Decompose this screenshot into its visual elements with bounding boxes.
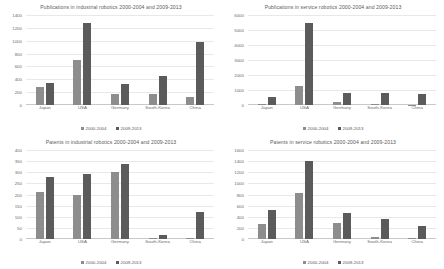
bar bbox=[111, 172, 119, 239]
y-axis-tick-label: 0 bbox=[20, 103, 22, 108]
y-axis-tick-label: 5000 bbox=[234, 28, 244, 33]
legend-item[interactable]: 2009-2013 bbox=[338, 260, 364, 265]
legend-item[interactable]: 2009-2013 bbox=[338, 126, 364, 131]
bar bbox=[295, 86, 303, 106]
bar bbox=[36, 192, 44, 239]
bar bbox=[149, 94, 157, 105]
y-axis-tick-label: 600 bbox=[237, 203, 244, 208]
legend-swatch-icon bbox=[303, 261, 307, 265]
legend-item[interactable]: 2000-2004 bbox=[81, 126, 107, 131]
chart-legend: 2000-20042009-2013 bbox=[0, 260, 222, 265]
bar-group bbox=[398, 15, 436, 105]
chart-grid: Publications in industrial robotics 2000… bbox=[0, 0, 444, 269]
legend-swatch-icon bbox=[338, 261, 342, 265]
bar-group bbox=[139, 150, 177, 239]
y-axis-tick-label: 4000 bbox=[234, 43, 244, 48]
chart-panel-publications-industrial: Publications in industrial robotics 2000… bbox=[0, 0, 222, 135]
bar bbox=[121, 164, 129, 239]
y-axis-tick-label: 0 bbox=[242, 103, 244, 108]
bar-group bbox=[176, 15, 214, 105]
plot-area: 050100150200250300350400 bbox=[26, 150, 214, 239]
x-axis-tick-label: China bbox=[176, 239, 214, 249]
bar bbox=[418, 226, 426, 239]
y-axis-tick-label: 800 bbox=[15, 51, 22, 56]
y-axis-tick-label: 150 bbox=[15, 203, 22, 208]
y-axis: 0100020003000400050006000 bbox=[224, 15, 246, 105]
legend-label: 2009-2013 bbox=[343, 126, 364, 131]
legend-item[interactable]: 2009-2013 bbox=[116, 126, 142, 131]
bar bbox=[258, 224, 266, 239]
x-axis-tick-label: USA bbox=[64, 239, 102, 249]
bar-group bbox=[248, 15, 286, 105]
x-axis: JapanUSAGermanySouth-KoreaChina bbox=[248, 239, 436, 249]
y-axis-tick-label: 1000 bbox=[234, 88, 244, 93]
legend-item[interactable]: 2009-2013 bbox=[116, 260, 142, 265]
y-axis-tick-label: 600 bbox=[15, 64, 22, 69]
chart-title: Patents in industrial robotics 2000-2004… bbox=[0, 139, 222, 145]
x-axis: JapanUSAGermanySouth-KoreaChina bbox=[26, 105, 214, 115]
x-axis-tick-label: Germany bbox=[101, 105, 139, 115]
y-axis-tick-label: 2000 bbox=[234, 73, 244, 78]
plot-area: 0200400600800100012001400 bbox=[26, 15, 214, 105]
bar bbox=[159, 76, 167, 105]
bar bbox=[381, 219, 389, 239]
x-axis: JapanUSAGermanySouth-KoreaChina bbox=[248, 105, 436, 115]
bar-group bbox=[323, 150, 361, 239]
plot-area: 02004006008001000120014001600 bbox=[248, 150, 436, 239]
y-axis-tick-label: 0 bbox=[242, 237, 244, 242]
y-axis-tick-label: 1600 bbox=[234, 148, 244, 153]
y-axis-tick-label: 200 bbox=[15, 192, 22, 197]
bar bbox=[46, 83, 54, 106]
bar bbox=[381, 93, 389, 105]
bar-group bbox=[361, 15, 399, 105]
bar bbox=[343, 93, 351, 105]
legend-item[interactable]: 2000-2004 bbox=[81, 260, 107, 265]
legend-item[interactable]: 2000-2004 bbox=[303, 126, 329, 131]
legend-item[interactable]: 2000-2004 bbox=[303, 260, 329, 265]
y-axis-tick-label: 3000 bbox=[234, 58, 244, 63]
x-axis-tick-label: China bbox=[176, 105, 214, 115]
bar bbox=[305, 23, 313, 106]
bar-group bbox=[101, 15, 139, 105]
x-axis-tick-label: Germany bbox=[323, 105, 361, 115]
bars-container bbox=[26, 15, 214, 105]
bars-container bbox=[248, 150, 436, 239]
y-axis-tick-label: 1400 bbox=[12, 13, 22, 18]
y-axis: 050100150200250300350400 bbox=[2, 150, 24, 239]
x-axis-tick-label: Germany bbox=[101, 239, 139, 249]
y-axis-tick-label: 200 bbox=[15, 90, 22, 95]
y-axis-tick-label: 250 bbox=[15, 181, 22, 186]
bar bbox=[305, 161, 313, 239]
bars-container bbox=[26, 150, 214, 239]
bars-container bbox=[248, 15, 436, 105]
chart-panel-patents-industrial: Patents in industrial robotics 2000-2004… bbox=[0, 135, 222, 269]
legend-label: 2000-2004 bbox=[86, 126, 107, 131]
chart-title: Publications in industrial robotics 2000… bbox=[0, 4, 222, 10]
bar bbox=[196, 42, 204, 105]
x-axis-tick-label: Japan bbox=[26, 239, 64, 249]
y-axis-tick-label: 1200 bbox=[12, 25, 22, 30]
bar bbox=[83, 174, 91, 239]
legend-label: 2009-2013 bbox=[343, 260, 364, 265]
x-axis-tick-label: South-Korea bbox=[361, 105, 399, 115]
y-axis-tick-label: 1000 bbox=[234, 181, 244, 186]
y-axis-tick-label: 1000 bbox=[12, 38, 22, 43]
bar-group bbox=[286, 15, 324, 105]
y-axis-tick-label: 100 bbox=[15, 214, 22, 219]
bar bbox=[111, 94, 119, 105]
y-axis-tick-label: 50 bbox=[17, 225, 22, 230]
bar bbox=[295, 193, 303, 239]
x-axis-tick-label: China bbox=[398, 239, 436, 249]
x-axis-tick-label: South-Korea bbox=[139, 239, 177, 249]
plot-area: 0100020003000400050006000 bbox=[248, 15, 436, 105]
legend-swatch-icon bbox=[303, 127, 307, 131]
legend-swatch-icon bbox=[338, 127, 342, 131]
chart-title: Patents in service robotics 2000-2004 an… bbox=[222, 139, 444, 145]
bar bbox=[36, 87, 44, 105]
bar bbox=[196, 212, 204, 239]
legend-label: 2000-2004 bbox=[86, 260, 107, 265]
chart-legend: 2000-20042009-2013 bbox=[222, 126, 444, 131]
bar bbox=[121, 84, 129, 105]
chart-panel-publications-service: Publications in service robotics 2000-20… bbox=[222, 0, 444, 135]
chart-legend: 2000-20042009-2013 bbox=[0, 126, 222, 131]
